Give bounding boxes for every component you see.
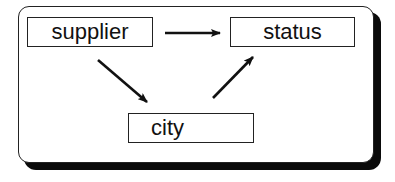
edges-layer (0, 0, 395, 182)
edge-supplier-city-arrow (98, 60, 147, 102)
edge-city-status-arrow (213, 57, 253, 98)
